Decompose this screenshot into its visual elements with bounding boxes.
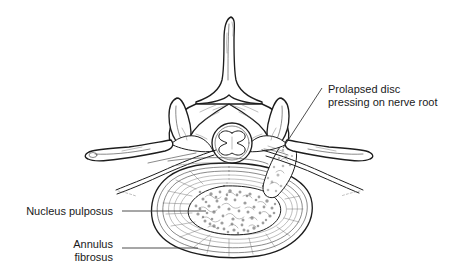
label-prolapsed-disc-line2: pressing on nerve root	[328, 96, 437, 108]
label-nucleus-pulposus: Nucleus pulposus	[26, 205, 113, 217]
label-annulus-fibrosus-line2: fibrosus	[74, 251, 113, 263]
vertebra-cross-section-illustration: Prolapsed disc pressing on nerve root Nu…	[0, 0, 459, 276]
anatomy-figure: Prolapsed disc pressing on nerve root Nu…	[0, 0, 459, 276]
spinal-cord	[212, 123, 252, 163]
label-prolapsed-disc-line1: Prolapsed disc	[328, 83, 401, 95]
label-annulus-fibrosus-line1: Annulus	[73, 238, 113, 250]
